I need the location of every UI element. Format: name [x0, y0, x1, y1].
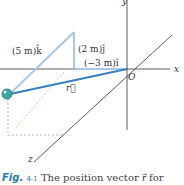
z-axis: [34, 35, 172, 162]
j-component-label: (2 m)ĵ: [78, 44, 105, 54]
fig-label: Fig.: [2, 172, 23, 183]
k-component-label: (5 m)k̂: [12, 44, 42, 56]
x-axis-label: x: [174, 64, 179, 74]
fig-number: 4-1: [26, 175, 37, 183]
caption-text: The position vector r⃗ for: [41, 172, 164, 183]
y-axis-label: y: [121, 0, 128, 6]
dashed-projection: [14, 72, 64, 130]
particle: [2, 89, 12, 99]
origin-label: O: [128, 72, 136, 82]
particle-highlight: [3, 90, 6, 93]
z-axis-label: z: [27, 154, 33, 164]
vector-r-label: r⃗: [66, 83, 76, 93]
figure-caption: Fig. 4-1 The position vector r⃗ for: [2, 172, 164, 183]
i-component-label: (−3 m)î: [84, 58, 119, 68]
position-vector-diagram: y x z O (5 m)k̂ (2 m)ĵ (−3 m)î r⃗: [0, 0, 184, 185]
